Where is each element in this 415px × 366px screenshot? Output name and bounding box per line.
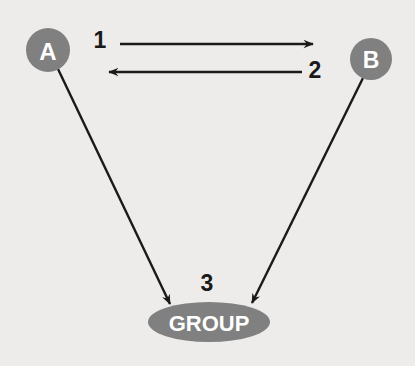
node-b-label: B <box>363 47 380 73</box>
node-group-label: GROUP <box>169 311 250 336</box>
diagram-canvas: GROUP A B 1 2 3 <box>0 0 415 366</box>
edge-b-to-group-line <box>252 78 363 303</box>
edge-a-to-group-line <box>58 69 170 304</box>
node-a[interactable]: A <box>26 28 70 72</box>
edge-a-to-group <box>58 69 170 304</box>
node-b[interactable]: B <box>350 38 392 80</box>
diagram-svg: GROUP A B 1 2 3 <box>0 0 415 366</box>
edge-b-to-group <box>252 78 363 303</box>
edge-label-1: 1 <box>94 27 107 53</box>
edge-label-3: 3 <box>201 270 214 296</box>
node-a-label: A <box>39 38 56 65</box>
node-group[interactable]: GROUP <box>148 302 270 342</box>
edge-label-2: 2 <box>309 57 322 83</box>
